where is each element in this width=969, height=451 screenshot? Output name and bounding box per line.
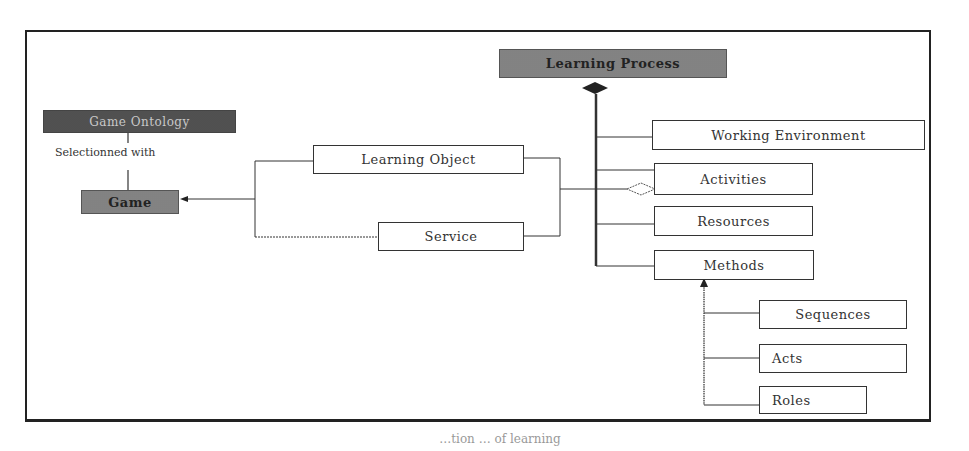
node-label: Learning Object: [361, 152, 475, 167]
node-roles: Roles: [759, 386, 867, 414]
aggregation-diamond-icon: [627, 183, 655, 195]
node-label: Acts: [772, 351, 803, 366]
figure-caption: …tion … of learning: [350, 432, 650, 446]
node-working-environment: Working Environment: [652, 120, 925, 150]
node-learning-process: Learning Process: [499, 49, 727, 78]
node-sequences: Sequences: [759, 300, 907, 329]
node-label: Roles: [772, 393, 811, 408]
arrowhead-icon: [180, 196, 188, 202]
node-label: Working Environment: [711, 128, 865, 143]
node-methods: Methods: [654, 250, 814, 280]
composition-diamond-icon: [582, 82, 608, 94]
node-label: Sequences: [795, 307, 871, 322]
node-acts: Acts: [759, 344, 907, 373]
node-resources: Resources: [654, 206, 813, 236]
node-label: Resources: [697, 214, 770, 229]
node-game-ontology: Game Ontology: [43, 110, 236, 133]
node-label: Activities: [700, 172, 766, 187]
node-activities: Activities: [654, 163, 813, 195]
node-label: Methods: [704, 258, 765, 273]
node-label: Game: [108, 195, 152, 210]
node-service: Service: [378, 222, 524, 251]
node-label: Learning Process: [546, 56, 680, 71]
edge-label-selection: Selectionned with: [55, 146, 155, 159]
node-label: Service: [425, 229, 478, 244]
node-game: Game: [81, 190, 179, 214]
node-label: Game Ontology: [89, 115, 190, 129]
node-learning-object: Learning Object: [313, 145, 524, 174]
